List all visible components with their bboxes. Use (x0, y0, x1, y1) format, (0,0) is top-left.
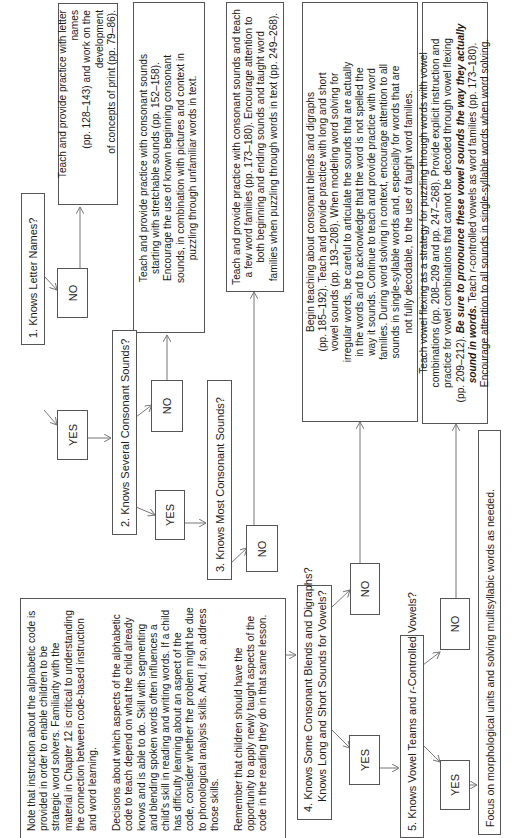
text-line: way it sounds. Continue to teach and pro… (366, 4, 378, 420)
yes-label: YES (359, 749, 371, 771)
no-label: NO (359, 581, 371, 598)
text-line: Encourage attention to all sounds in sin… (479, 4, 491, 422)
text-line: puzzling through unfamiliar words in tex… (187, 5, 199, 331)
emphasis-text: Be sure to pronounce these vowel sounds … (455, 24, 466, 334)
no-label: NO (161, 398, 173, 415)
yes-label: YES (164, 504, 176, 526)
instruction-box-vowel-flexing: Teach vowel flexing as a strategy for pu… (422, 2, 488, 424)
text-line: Teach and provide practice with consonan… (138, 5, 150, 331)
text-line: Teach vowel flexing as a strategy for pu… (418, 4, 430, 422)
no-box-3: NO (246, 525, 278, 572)
question-3-most-consonants: 3. Knows Most Consonant Sounds? (207, 380, 232, 580)
text-line: not fully decodable, to the use of taugh… (403, 4, 415, 420)
no-box-4: NO (350, 563, 380, 615)
instruction-box-most-consonants: Teach and provide practice with consonan… (226, 2, 284, 292)
no-box-1: NO (57, 268, 88, 318)
question-4-blends-long-short: 4. Knows Some Consonant Blends and Digra… (297, 585, 332, 820)
text-line: in the words and to acknowledge that the… (354, 4, 366, 420)
note-paragraph-2: Decisions about which aspects of the alp… (111, 607, 221, 831)
question-label-line2: Knows Long and Short Sounds for Vowels? (315, 588, 329, 812)
question-1-letter-names: 1. Knows Letter Names? (21, 193, 45, 345)
text-line: Encourage the use of known beginning con… (163, 5, 175, 331)
text-line: sounds in single-syllable words and, esp… (391, 4, 403, 420)
yes-label: YES (67, 424, 79, 446)
text-line: Teach and provide practice with letter n… (57, 10, 81, 204)
instruction-box-focus-morphology: Focus on morphological units and solving… (478, 430, 501, 835)
text-line: combinations (pp. 208–209 and pp. 247–26… (431, 4, 443, 422)
text-line: Begin teaching about consonant blends an… (305, 4, 317, 420)
yes-box-4: YES (349, 735, 380, 785)
yes-box-1: YES (57, 410, 88, 460)
text-line: practice for vowel combinations that can… (443, 4, 455, 422)
text-line: both beginning and ending sounds and tau… (255, 3, 267, 291)
question-label: 5. Knows Vowel Teams and r-Controlled Vo… (406, 637, 418, 837)
text-line: irregular words, be careful to articulat… (342, 4, 354, 420)
emphasis-text: sound in words. (467, 305, 478, 383)
instruction-box-several-consonants: Teach and provide practice with consonan… (133, 2, 205, 333)
note-paragraph-1: Note that instruction about the alphabet… (26, 607, 99, 831)
instruction-box-blends-digraphs: Begin teaching about consonant blends an… (302, 2, 418, 422)
text-line: sounds, in combination with pictures and… (175, 5, 187, 331)
question-label: 2. Knows Several Consonant Sounds? (119, 333, 131, 533)
question-label: 3. Knows Most Consonant Sounds? (214, 382, 226, 578)
yes-label: YES (449, 774, 461, 796)
yes-box-2: YES (155, 490, 185, 540)
no-label: NO (256, 540, 268, 557)
question-5-vowel-teams: 5. Knows Vowel Teams and r-Controlled Vo… (400, 635, 424, 838)
no-label: NO (449, 616, 461, 633)
note-paragraph-3: Remember that children should have the o… (233, 607, 270, 831)
text-line: sound in words. Teach r-controlled vowel… (467, 4, 479, 422)
no-label: NO (67, 285, 79, 302)
question-2-several-consonants: 2. Knows Several Consonant Sounds? (112, 330, 137, 535)
focus-text: Focus on morphological units and solving… (484, 433, 496, 833)
yes-box-5: YES (440, 760, 470, 810)
text-line: families. During word solving in context… (378, 4, 390, 420)
text-line: vowel sounds (pp. 193–208). When modelin… (329, 4, 341, 420)
instruction-box-letter-names: Teach and provide practice with letter n… (58, 3, 118, 205)
no-box-5: NO (440, 598, 470, 650)
question-label-line1: 4. Knows Some Consonant Blends and Digra… (301, 588, 315, 812)
no-box-2: NO (151, 380, 183, 432)
text-line: starting with stretchable sounds (pp. 15… (151, 5, 163, 331)
text-line: (pp. 128–143) and work on the developmen… (82, 10, 106, 204)
text-line: families when puzzling through words in … (267, 3, 279, 291)
question-label: 1. Knows Letter Names? (27, 194, 39, 344)
text-line: Teach and provide practice with consonan… (231, 3, 243, 291)
text-line: a few word families (pp. 173–180). Encou… (243, 3, 255, 291)
text-line: (pp. 209–212). Be sure to pronounce thes… (455, 4, 467, 422)
note-box: Note that instruction about the alphabet… (20, 598, 286, 838)
text-line: of concepts of print (pp. 79–86). (106, 10, 118, 204)
text-line: (pp. 185–192). Teach and provide practic… (317, 4, 329, 420)
